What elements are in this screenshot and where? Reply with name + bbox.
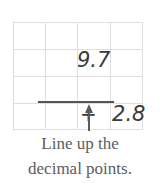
- grid-line-horizontal: [13, 103, 143, 104]
- decimal-addition-figure: 9.7 +2.8 Line up the decimal points.: [0, 0, 160, 183]
- grid-line-horizontal: [13, 22, 143, 23]
- grid-line-horizontal: [13, 76, 143, 77]
- caption-line-1: Line up the: [0, 131, 160, 156]
- caption: Line up the decimal points.: [0, 131, 160, 181]
- grid-line-horizontal: [13, 49, 143, 50]
- squared-paper-grid: [13, 22, 143, 130]
- grid-line-horizontal: [13, 129, 143, 130]
- caption-line-2: decimal points.: [0, 156, 160, 181]
